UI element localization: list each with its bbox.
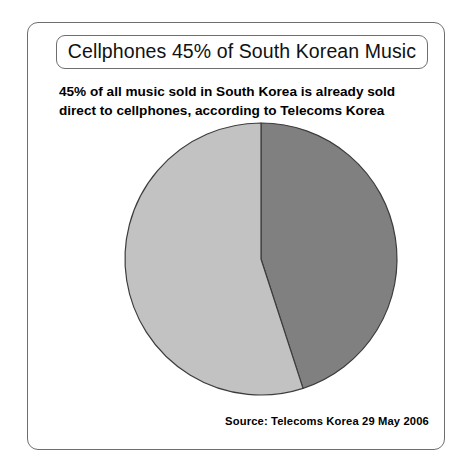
subtitle-line-2: direct to cellphones, according to Telec… (59, 101, 429, 120)
source-attribution: Source: Telecoms Korea 29 May 2006 (56, 415, 429, 427)
title-box: Cellphones 45% of South Korean Music (56, 35, 428, 69)
pie-slice-group (125, 123, 397, 395)
subtitle: 45% of all music sold in South Korea is … (59, 82, 429, 120)
subtitle-line-1: 45% of all music sold in South Korea is … (59, 82, 429, 101)
infographic-card: Cellphones 45% of South Korean Music 45%… (27, 22, 445, 450)
pie-chart (28, 119, 444, 399)
pie-chart-svg (72, 119, 402, 404)
page-title: Cellphones 45% of South Korean Music (68, 42, 416, 62)
